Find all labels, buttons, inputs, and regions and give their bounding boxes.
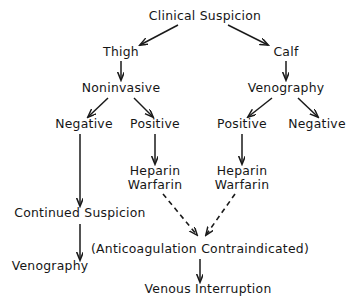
edge-warfarin-left-to-anticoagulation [163, 194, 197, 235]
node-negative-right: Negative [288, 116, 346, 131]
node-warfarin-right: Warfarin [215, 177, 270, 192]
node-venography-top: Venography [248, 80, 325, 95]
node-positive-right: Positive [217, 116, 267, 131]
edge-noninvasive-to-positive [134, 98, 153, 117]
node-noninvasive: Noninvasive [82, 80, 161, 95]
node-anticoagulation-contraindicated: (Anticoagulation Contraindicated) [91, 241, 309, 256]
edge-venography-to-positive [248, 98, 272, 117]
node-warfarin-left: Warfarin [128, 177, 183, 192]
node-negative-left: Negative [55, 116, 113, 131]
node-clinical-suspicion: Clinical Suspicion [149, 8, 261, 23]
edge-venography-to-negative [298, 98, 318, 117]
node-venous-interruption: Venous Interruption [145, 281, 272, 296]
edge-noninvasive-to-negative [88, 98, 108, 117]
edge-clinical-to-thigh [140, 25, 178, 45]
nodes-layer: Clinical Suspicion Thigh Calf Noninvasiv… [12, 8, 346, 296]
node-heparin-right: Heparin [217, 163, 268, 178]
node-venography-bottom: Venography [12, 258, 89, 273]
diagram-canvas: Clinical Suspicion Thigh Calf Noninvasiv… [0, 0, 360, 308]
node-thigh: Thigh [102, 44, 139, 59]
node-positive-left: Positive [130, 116, 180, 131]
node-heparin-left: Heparin [130, 163, 181, 178]
node-continued-suspicion: Continued Suspicion [14, 205, 145, 220]
edge-warfarin-right-to-anticoagulation [206, 194, 235, 235]
node-calf: Calf [273, 44, 298, 59]
edge-clinical-to-calf [228, 25, 268, 45]
flowchart-svg: Clinical Suspicion Thigh Calf Noninvasiv… [0, 0, 360, 308]
